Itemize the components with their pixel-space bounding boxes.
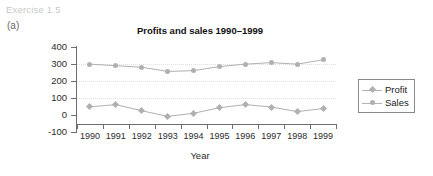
y-axis-tick — [71, 81, 76, 82]
chart-title: Profits and sales 1990–1999 — [60, 25, 340, 36]
data-point-sales — [217, 64, 222, 69]
x-axis-tick — [336, 124, 337, 129]
x-axis-title: Year — [60, 150, 340, 161]
data-point-sales — [243, 62, 248, 67]
x-axis-tick-label: 1999 — [308, 131, 338, 141]
legend-marker-diamond-icon — [362, 84, 382, 96]
y-axis-tick — [71, 47, 76, 48]
legend-label-profit: Profit — [382, 84, 407, 95]
series-line-profit — [90, 105, 323, 117]
y-axis-tick-label: 400 — [33, 42, 67, 52]
legend-item-sales: Sales — [362, 96, 409, 109]
y-axis-tick-label: 100 — [33, 93, 67, 103]
data-point-sales — [269, 60, 274, 65]
chart-legend: Profit Sales — [358, 79, 415, 113]
series-lines — [77, 47, 336, 132]
y-axis-tick — [71, 115, 76, 116]
data-point-sales — [139, 65, 144, 70]
plot-area — [77, 47, 336, 132]
y-axis-tick — [71, 64, 76, 65]
legend-marker-circle-icon — [362, 97, 382, 109]
data-point-sales — [321, 57, 326, 62]
y-axis-tick-label: 200 — [33, 76, 67, 86]
chart-figure: Profits and sales 1990–1999 Profits and … — [0, 0, 433, 176]
legend-label-sales: Sales — [382, 97, 409, 108]
y-axis-tick-label: -100 — [33, 127, 67, 137]
data-point-sales — [295, 62, 300, 67]
legend-item-profit: Profit — [362, 83, 409, 96]
series-line-sales — [90, 60, 323, 72]
y-axis-tick — [71, 98, 76, 99]
y-axis-tick-label: 0 — [33, 110, 67, 120]
y-axis-tick-label: 300 — [33, 59, 67, 69]
